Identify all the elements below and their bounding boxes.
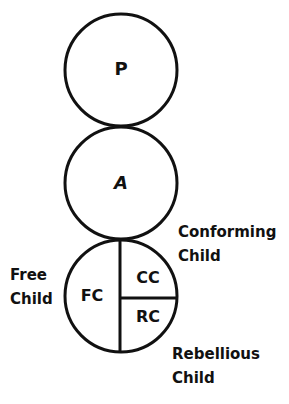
conforming-child-label: CC bbox=[130, 268, 166, 287]
rebellious-child-annotation: Rebellious Child bbox=[172, 344, 260, 388]
rebellious-line2: Child bbox=[172, 368, 260, 388]
rebellious-child-label: RC bbox=[130, 307, 166, 326]
free-child-annotation: Free Child bbox=[10, 265, 53, 309]
free-child-label: FC bbox=[74, 286, 110, 305]
free-line1: Free bbox=[10, 265, 53, 285]
conforming-line1: Conforming bbox=[178, 222, 276, 242]
conforming-line2: Child bbox=[178, 246, 276, 266]
conforming-child-annotation: Conforming Child bbox=[178, 222, 276, 266]
free-line2: Child bbox=[10, 289, 53, 309]
parent-label: P bbox=[106, 58, 136, 79]
rebellious-line1: Rebellious bbox=[172, 344, 260, 364]
adult-label: A bbox=[106, 172, 136, 193]
